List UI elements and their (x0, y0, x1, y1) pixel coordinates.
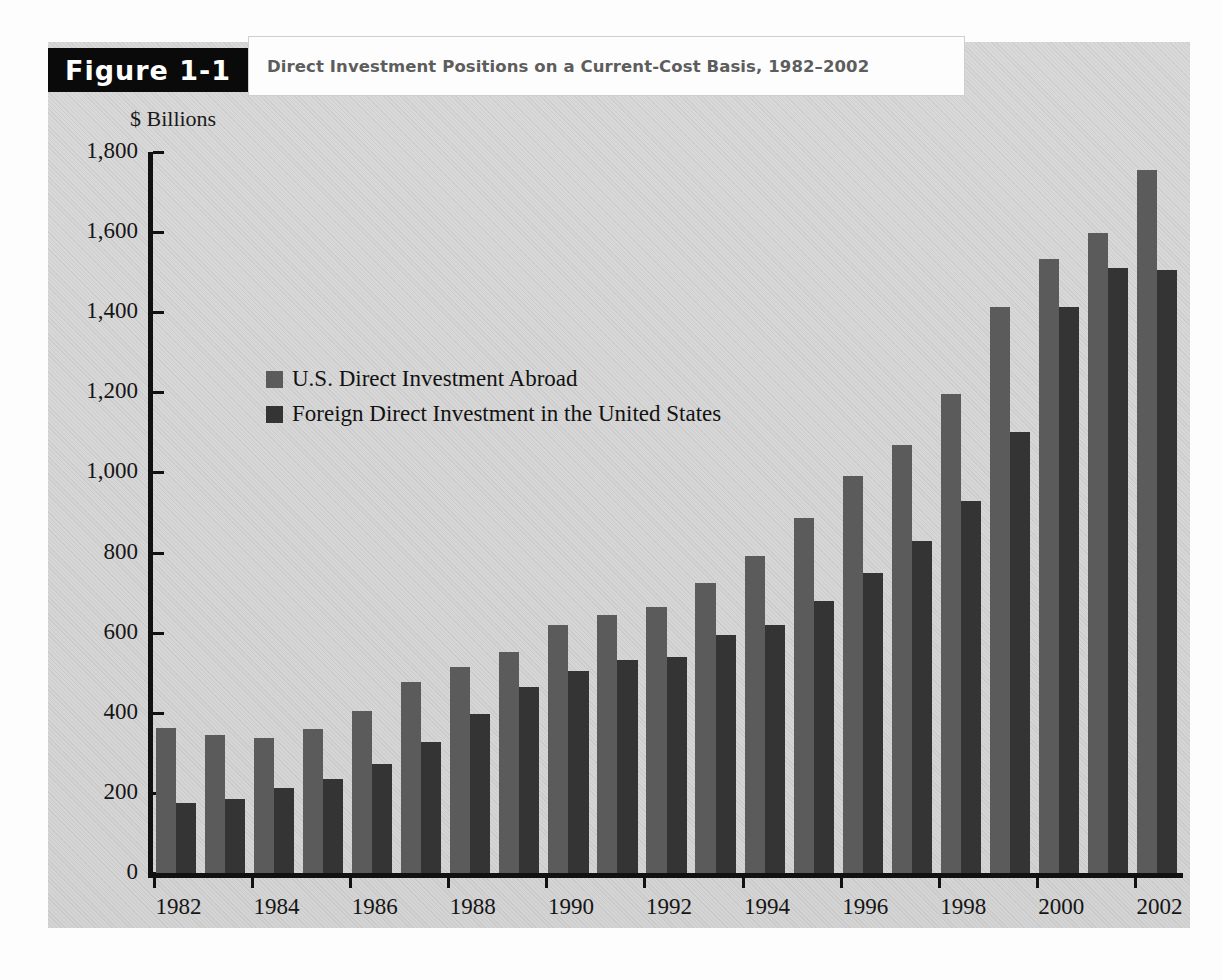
bar-1991-series1 (597, 615, 617, 873)
legend-swatch-icon (266, 406, 283, 423)
x-axis-tick (938, 878, 941, 888)
x-axis-line (148, 873, 1183, 878)
bar-1992-series1 (646, 607, 666, 873)
bar-series-group (153, 152, 1183, 873)
bar-1985-series1 (303, 729, 323, 873)
x-axis-tick (545, 878, 548, 888)
bar-1986-series2 (372, 764, 392, 873)
bar-1983-series1 (205, 735, 225, 873)
x-axis-tick (447, 878, 450, 888)
y-axis-tick-label: 800 (104, 539, 139, 565)
bar-2001-series1 (1088, 233, 1108, 873)
bar-1989-series1 (499, 652, 519, 873)
legend-label: U.S. Direct Investment Abroad (292, 366, 578, 392)
y-axis-tick-label: 600 (104, 619, 139, 645)
bar-1997-series2 (912, 541, 932, 873)
y-axis-tick-label: 400 (104, 699, 139, 725)
bar-2002-series1 (1137, 170, 1157, 873)
bar-1994-series1 (745, 556, 765, 873)
bar-1983-series2 (225, 799, 245, 873)
legend-item-us-direct-investment-abroad: U.S. Direct Investment Abroad (266, 366, 721, 392)
bar-1996-series2 (863, 573, 883, 873)
bar-2000-series1 (1039, 259, 1059, 873)
y-axis-tick-label: 0 (127, 859, 139, 885)
bar-1984-series1 (254, 738, 274, 873)
x-axis-tick (840, 878, 843, 888)
chart-legend: U.S. Direct Investment Abroad Foreign Di… (266, 366, 721, 436)
bar-1992-series2 (667, 657, 687, 873)
bar-1998-series1 (941, 394, 961, 873)
legend-swatch-icon (266, 371, 283, 388)
bar-1986-series1 (352, 711, 372, 873)
bar-1995-series2 (814, 601, 834, 873)
bar-2000-series2 (1059, 307, 1079, 873)
y-axis-unit-label: $ Billions (130, 106, 216, 132)
bar-1987-series1 (401, 682, 421, 873)
x-axis-tick-label: 1994 (744, 894, 790, 920)
bar-1985-series2 (323, 779, 343, 873)
x-axis-tick (1036, 878, 1039, 888)
bar-1997-series1 (892, 445, 912, 873)
y-axis-tick-label: 1,200 (86, 378, 138, 404)
x-axis-tick-label: 1986 (352, 894, 398, 920)
bar-1982-series2 (176, 803, 196, 873)
bar-1982-series1 (156, 728, 176, 873)
bar-2002-series2 (1157, 270, 1177, 873)
y-axis-tick-label: 1,400 (86, 298, 138, 324)
bar-1999-series1 (990, 307, 1010, 873)
x-axis-tick (153, 878, 156, 888)
x-axis-tick (349, 878, 352, 888)
bar-1990-series1 (548, 625, 568, 873)
bar-1999-series2 (1010, 432, 1030, 873)
bar-1990-series2 (568, 671, 588, 873)
x-axis-tick-label: 1984 (254, 894, 300, 920)
x-axis-tick-label: 1992 (646, 894, 692, 920)
x-axis-tick (742, 878, 745, 888)
y-axis-tick-label: 1,600 (86, 218, 138, 244)
legend-item-foreign-direct-investment-in-the-united-states: Foreign Direct Investment in the United … (266, 401, 721, 427)
x-axis-tick-label: 1996 (842, 894, 888, 920)
y-axis-tick-label: 1,000 (86, 458, 138, 484)
bar-1991-series2 (617, 660, 637, 873)
x-axis-tick (251, 878, 254, 888)
bar-1987-series2 (421, 742, 441, 873)
x-axis-tick-label: 1990 (548, 894, 594, 920)
x-axis-tick (643, 878, 646, 888)
bar-1988-series2 (470, 714, 490, 873)
x-axis-tick-label: 2002 (1136, 894, 1182, 920)
bar-1998-series2 (961, 501, 981, 873)
x-axis-tick-label: 2000 (1038, 894, 1084, 920)
bar-1996-series1 (843, 476, 863, 873)
x-axis-tick-label: 1998 (940, 894, 986, 920)
y-axis-tick-label: 200 (104, 779, 139, 805)
bar-1993-series2 (716, 635, 736, 873)
x-axis-tick (1134, 878, 1137, 888)
bar-2001-series2 (1108, 268, 1128, 873)
chart-plot-area: $ Billions 02004006008001,0001,2001,4001… (48, 42, 1190, 928)
y-axis-tick-label: 1,800 (86, 138, 138, 164)
bar-1993-series1 (695, 583, 715, 873)
x-axis-tick-label: 1982 (156, 894, 202, 920)
bar-1994-series2 (765, 625, 785, 873)
bar-1984-series2 (274, 788, 294, 873)
legend-label: Foreign Direct Investment in the United … (292, 401, 721, 427)
figure-page: Figure 1-1 Direct Investment Positions o… (0, 0, 1223, 980)
bar-1995-series1 (794, 518, 814, 873)
x-axis-tick-label: 1988 (450, 894, 496, 920)
bar-1988-series1 (450, 667, 470, 873)
bar-1989-series2 (519, 687, 539, 873)
